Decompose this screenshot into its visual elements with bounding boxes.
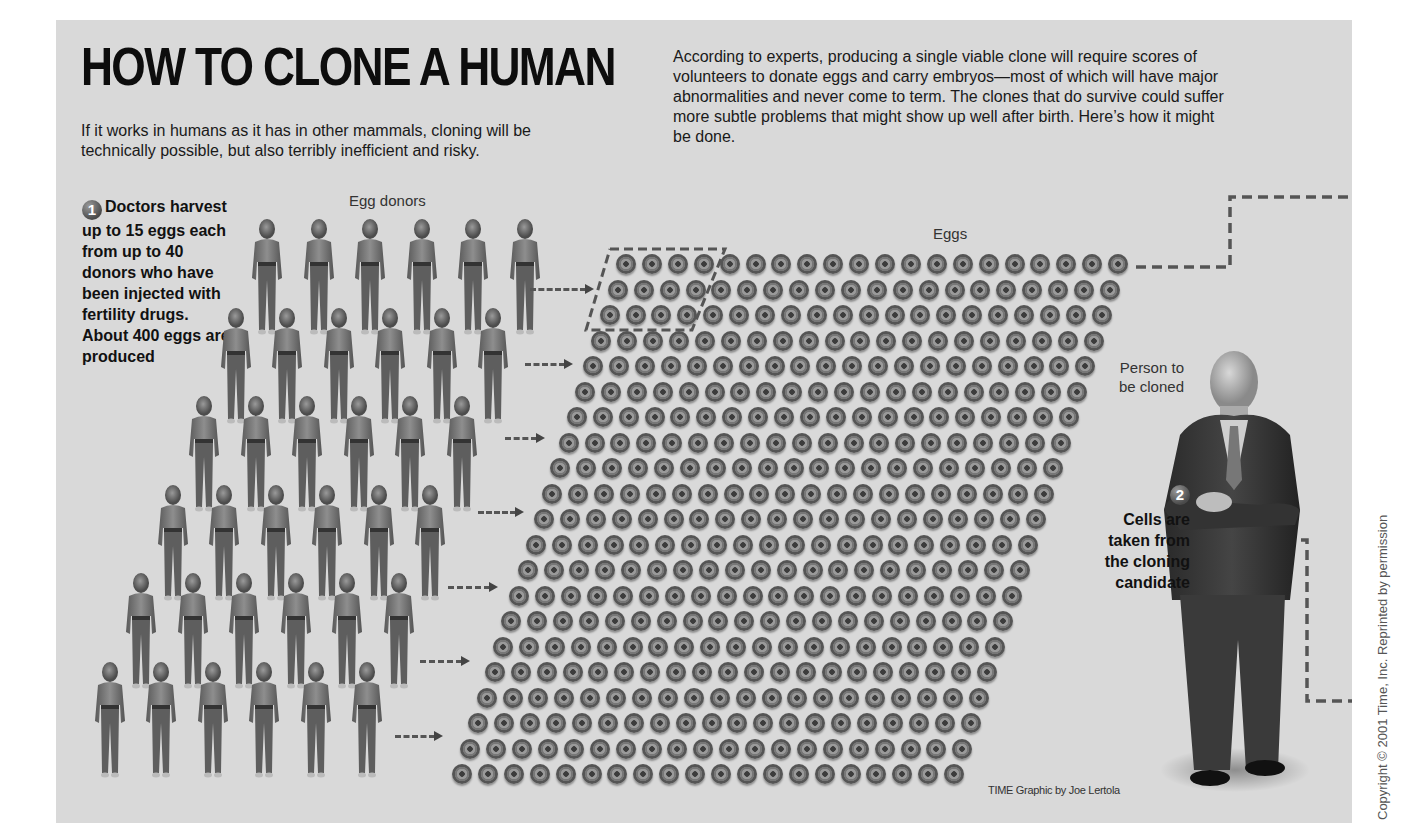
egg-cell-icon: [999, 433, 1019, 453]
egg-cell-icon: [702, 713, 722, 733]
egg-cell-icon: [683, 611, 703, 631]
egg-cell-icon: [1010, 560, 1030, 580]
egg-cell-icon: [785, 535, 805, 555]
egg-cell-icon: [585, 433, 605, 453]
egg-cell-icon: [852, 407, 872, 427]
egg-cell-icon: [1034, 484, 1054, 504]
egg-cell-icon: [820, 586, 840, 606]
egg-cell-icon: [811, 535, 831, 555]
egg-cell-icon: [906, 560, 926, 580]
egg-cell-icon: [726, 637, 746, 657]
egg-cell-icon: [805, 713, 825, 733]
egg-cell-icon: [594, 484, 614, 504]
egg-cell-icon: [846, 586, 866, 606]
page-title: HOW TO CLONE A HUMAN: [81, 38, 615, 94]
egg-cell-icon: [1048, 280, 1068, 300]
egg-cell-icon: [988, 305, 1008, 325]
egg-cell-icon: [838, 611, 858, 631]
egg-cell-icon: [538, 739, 558, 759]
intro-paragraph: According to experts, producing a single…: [673, 47, 1233, 147]
egg-cell-icon: [977, 662, 997, 682]
egg-cell-icon: [756, 382, 776, 402]
egg-cell-icon: [733, 535, 753, 555]
egg-cell-icon: [613, 586, 633, 606]
egg-cell-icon: [932, 560, 952, 580]
egg-cell-icon: [815, 280, 835, 300]
egg-cell-icon: [940, 535, 960, 555]
egg-cell-icon: [627, 382, 647, 402]
egg-cell-icon: [983, 484, 1003, 504]
egg-cell-icon: [827, 484, 847, 504]
egg-cell-icon: [882, 637, 902, 657]
egg-cell-icon: [925, 662, 945, 682]
egg-cell-icon: [616, 739, 636, 759]
egg-cell-icon: [801, 484, 821, 504]
egg-cell-icon: [666, 662, 686, 682]
egg-cell-icon: [992, 535, 1012, 555]
dashed-arrow-icon: [448, 586, 490, 589]
egg-cell-icon: [872, 586, 892, 606]
egg-cell-icon: [1015, 382, 1035, 402]
egg-cell-icon: [895, 433, 915, 453]
egg-cell-icon: [964, 382, 984, 402]
egg-cell-icon: [692, 662, 712, 682]
egg-cell-icon: [786, 611, 806, 631]
egg-cell-icon: [871, 509, 891, 529]
egg-cell-icon: [917, 688, 937, 708]
dashed-arrow-icon: [525, 363, 565, 366]
egg-donors-label: Egg donors: [349, 192, 426, 209]
egg-cell-icon: [654, 458, 674, 478]
egg-cell-icon: [819, 509, 839, 529]
egg-cell-icon: [604, 535, 624, 555]
egg-cell-icon: [976, 586, 996, 606]
egg-cell-icon: [946, 356, 966, 376]
egg-cell-icon: [631, 611, 651, 631]
egg-cell-icon: [582, 764, 602, 784]
egg-cell-icon: [559, 433, 579, 453]
egg-cell-icon: [912, 382, 932, 402]
egg-cell-icon: [860, 382, 880, 402]
egg-cell-icon: [784, 458, 804, 478]
egg-cell-icon: [511, 662, 531, 682]
egg-cell-icon: [919, 280, 939, 300]
egg-cell-icon: [658, 688, 678, 708]
egg-cell-icon: [745, 739, 765, 759]
egg-cell-icon: [789, 280, 809, 300]
dashed-arrow-icon: [395, 735, 435, 738]
egg-cell-icon: [729, 305, 749, 325]
egg-cell-icon: [804, 637, 824, 657]
egg-cell-icon: [850, 331, 870, 351]
egg-cell-icon: [984, 560, 1004, 580]
egg-cell-icon: [605, 611, 625, 631]
egg-cell-icon: [655, 535, 675, 555]
egg-cell-icon: [857, 713, 877, 733]
egg-cell-icon: [898, 586, 918, 606]
egg-cell-icon: [530, 764, 550, 784]
egg-cell-icon: [1008, 484, 1028, 504]
egg-cell-icon: [830, 637, 850, 657]
egg-cell-icon: [629, 535, 649, 555]
egg-cell-icon: [996, 280, 1016, 300]
egg-cell-icon: [1051, 433, 1071, 453]
egg-cell-icon: [553, 611, 573, 631]
egg-cell-icon: [905, 484, 925, 504]
egg-cell-icon: [662, 433, 682, 453]
egg-cell-icon: [849, 739, 869, 759]
egg-cell-icon: [477, 688, 497, 708]
egg-cell-icon: [893, 280, 913, 300]
step-number-badge: 2: [1170, 485, 1190, 505]
egg-cell-icon: [639, 586, 659, 606]
egg-cell-icon: [782, 382, 802, 402]
person-figure-icon: [141, 661, 181, 781]
step-1-text: harvest up to 15 eggs each from up to 40…: [82, 198, 230, 365]
egg-cell-icon: [719, 739, 739, 759]
egg-cell-icon: [815, 764, 835, 784]
copyright-notice: Copyright © 2001 Time, Inc. Reprinted by…: [1375, 515, 1390, 820]
egg-cell-icon: [512, 739, 532, 759]
person-figure-icon: [90, 661, 130, 781]
egg-cell-icon: [556, 764, 576, 784]
egg-cell-icon: [1092, 305, 1112, 325]
egg-cell-icon: [567, 407, 587, 427]
egg-cell-icon: [765, 356, 785, 376]
egg-cell-icon: [711, 764, 731, 784]
